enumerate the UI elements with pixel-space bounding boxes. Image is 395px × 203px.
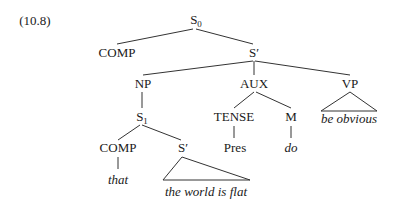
node-aux: AUX [240,77,268,91]
branch-aux-tense [234,92,254,108]
node-m: M [285,110,297,124]
leaf-pres: Pres [224,141,246,155]
node-vp: VP [342,77,359,91]
node-s0: S0 [190,13,202,31]
node-s1: S1 [136,110,148,128]
branch-sbar-np [143,61,253,75]
node-tense: TENSE [214,110,254,124]
triangle-vp [321,92,377,111]
node-np: NP [135,77,152,91]
node-s1-subscript: 1 [143,116,148,126]
leaf-do: do [285,141,298,155]
node-comp-low: COMP [100,141,137,155]
branch-sbar-vp [255,61,350,75]
branch-s0-sbar [196,29,253,44]
node-comp-top: COMP [99,46,136,60]
branch-s0-comp [117,29,193,44]
node-sbar-top: S′ [249,46,259,60]
node-s0-subscript: 0 [197,19,202,29]
leaf-be-obvious: be obvious [321,112,377,126]
leaf-the-world-is-flat: the world is flat [165,185,247,199]
node-sbar-low: S′ [178,141,188,155]
example-number: (10.8) [19,14,50,28]
leaf-that: that [108,173,128,187]
triangle-sbar-low [163,157,250,180]
branch-aux-m [256,92,291,108]
